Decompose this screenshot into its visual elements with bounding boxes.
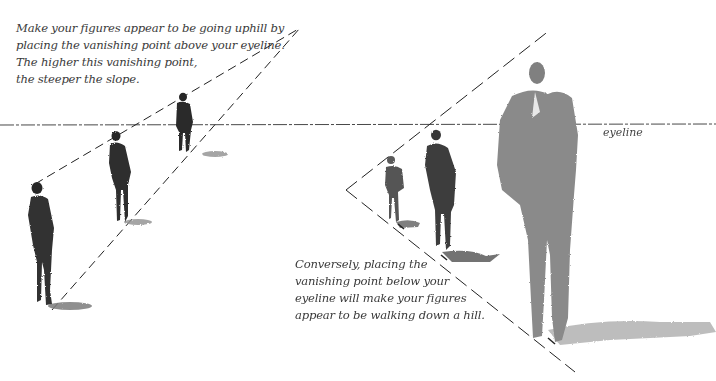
caption-line: placing the vanishing point above your e… xyxy=(16,37,285,54)
uphill-figures xyxy=(28,93,228,310)
shadow xyxy=(48,302,92,310)
caption-line: vanishing point below your xyxy=(295,273,485,290)
caption-line: eyeline will make your figures xyxy=(295,290,485,307)
downhill-figure-far xyxy=(385,156,420,228)
caption-line: Conversely, placing the xyxy=(295,256,485,273)
shadow xyxy=(396,220,420,228)
shadow xyxy=(548,321,716,345)
shadow xyxy=(202,151,228,157)
caption-line: The higher this vanishing point, xyxy=(16,54,285,71)
caption-line: Make your figures appear to be going uph… xyxy=(16,20,285,37)
caption-line: appear to be walking down a hill. xyxy=(295,307,485,324)
uphill-caption: Make your figures appear to be going uph… xyxy=(16,20,285,88)
downhill-figure-middle xyxy=(425,130,500,262)
uphill-figure-middle xyxy=(109,131,152,225)
eyeline-label: eyeline xyxy=(603,125,643,141)
shadow xyxy=(124,219,152,225)
perspective-illustration: Make your figures appear to be going uph… xyxy=(0,0,716,381)
caption-line: the steeper the slope. xyxy=(16,71,285,88)
downhill-figure-near xyxy=(497,62,716,345)
uphill-figure-near xyxy=(28,182,92,310)
downhill-caption: Conversely, placing the vanishing point … xyxy=(295,256,485,324)
